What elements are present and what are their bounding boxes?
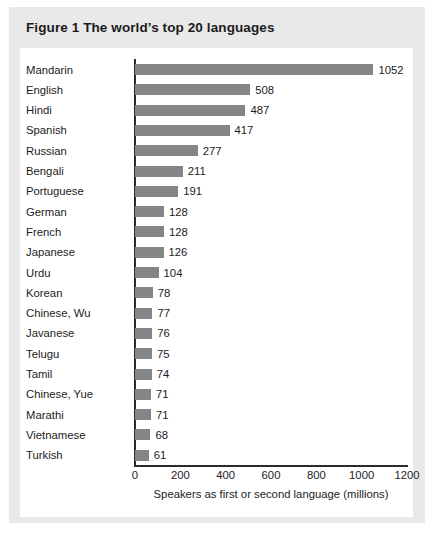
figure-screenshot: Figure 1 The world’s top 20 languages Ma… (0, 0, 435, 540)
bar (135, 125, 230, 136)
bar (135, 206, 164, 217)
bar (135, 348, 152, 359)
bar (135, 287, 153, 298)
bar-row: Mandarin1052 (20, 60, 413, 80)
bar-value-label: 211 (188, 161, 206, 181)
bar-value-label: 61 (154, 445, 167, 465)
bar-category-label: Turkish (26, 445, 63, 465)
bar-value-label: 76 (157, 323, 170, 343)
bar-value-label: 417 (235, 120, 254, 140)
x-tick-label: 600 (262, 469, 281, 481)
bar (135, 308, 152, 319)
bar-category-label: Bengali (26, 161, 64, 181)
bar-chart-plot: Mandarin1052English508Hindi487Spanish417… (20, 48, 413, 517)
bar-row: Tamil74 (20, 364, 413, 384)
bar (135, 429, 150, 440)
bar-category-label: Spanish (26, 120, 67, 140)
bar-row: Chinese, Wu77 (20, 303, 413, 323)
bar-row: Spanish417 (20, 120, 413, 140)
bar-category-label: Marathi (26, 405, 64, 425)
bar-row: Turkish61 (20, 445, 413, 465)
bar-category-label: Vietnamese (26, 425, 85, 445)
x-tick-label: 800 (307, 469, 326, 481)
bar-row: Chinese, Yue71 (20, 384, 413, 404)
bar-row: Marathi71 (20, 405, 413, 425)
bar-row: Portuguese191 (20, 181, 413, 201)
bar-value-label: 68 (155, 425, 168, 445)
bar-row: Vietnamese68 (20, 425, 413, 445)
bar (135, 84, 250, 95)
bar-value-label: 128 (169, 202, 188, 222)
bar-row: English508 (20, 80, 413, 100)
bar-row: Bengali211 (20, 161, 413, 181)
bar-row: Hindi487 (20, 100, 413, 120)
bar-category-label: Korean (26, 283, 62, 303)
bar-row: Japanese126 (20, 242, 413, 262)
bar-value-label: 104 (164, 263, 183, 283)
x-tick-label: 400 (216, 469, 235, 481)
bar-row: Korean78 (20, 283, 413, 303)
bar-category-label: Tamil (26, 364, 52, 384)
bar (135, 369, 152, 380)
bar-category-label: English (26, 80, 63, 100)
x-axis-line (134, 465, 408, 467)
bar (135, 389, 151, 400)
bar-row: Russian277 (20, 141, 413, 161)
x-tick-label: 1200 (394, 469, 419, 481)
bar (135, 247, 164, 258)
bar (135, 328, 152, 339)
bar-value-label: 75 (157, 344, 170, 364)
bar-value-label: 128 (169, 222, 188, 242)
bar-row: German128 (20, 202, 413, 222)
bar-category-label: French (26, 222, 61, 242)
bar-value-label: 78 (158, 283, 171, 303)
bar-category-label: Chinese, Yue (26, 384, 93, 404)
bar-value-label: 126 (169, 242, 188, 262)
bar (135, 166, 183, 177)
bar-value-label: 1052 (378, 60, 403, 80)
bar-row: Urdu104 (20, 263, 413, 283)
bar-value-label: 71 (156, 384, 169, 404)
bar (135, 64, 373, 75)
bar-value-label: 191 (183, 181, 202, 201)
chart-card: Mandarin1052English508Hindi487Spanish417… (20, 48, 413, 517)
bar-category-label: German (26, 202, 67, 222)
bar (135, 226, 164, 237)
bar (135, 450, 149, 461)
figure-title: Figure 1 The world’s top 20 languages (9, 7, 425, 48)
x-axis-title: Speakers as first or second language (mi… (134, 488, 408, 500)
bar-value-label: 487 (250, 100, 269, 120)
bar (135, 267, 159, 278)
bar-category-label: Javanese (26, 323, 74, 343)
bar (135, 186, 178, 197)
x-tick-label: 200 (171, 469, 190, 481)
bar-row: Telugu75 (20, 344, 413, 364)
bar-value-label: 71 (156, 405, 169, 425)
bar-row: Javanese76 (20, 323, 413, 343)
bar-row: French128 (20, 222, 413, 242)
bar-category-label: Mandarin (26, 60, 73, 80)
bar-value-label: 508 (255, 80, 274, 100)
x-tick-label: 0 (132, 469, 138, 481)
bar (135, 145, 198, 156)
bar-category-label: Japanese (26, 242, 75, 262)
bar-category-label: Chinese, Wu (26, 303, 90, 323)
bar-value-label: 77 (157, 303, 170, 323)
bar-value-label: 277 (203, 141, 222, 161)
bar-category-label: Urdu (26, 263, 51, 283)
bar-category-label: Telugu (26, 344, 59, 364)
x-tick-label: 1000 (349, 469, 374, 481)
bar (135, 409, 151, 420)
bar (135, 105, 245, 116)
bar-category-label: Hindi (26, 100, 52, 120)
bar-category-label: Portuguese (26, 181, 84, 201)
bar-value-label: 74 (157, 364, 170, 384)
bar-category-label: Russian (26, 141, 67, 161)
